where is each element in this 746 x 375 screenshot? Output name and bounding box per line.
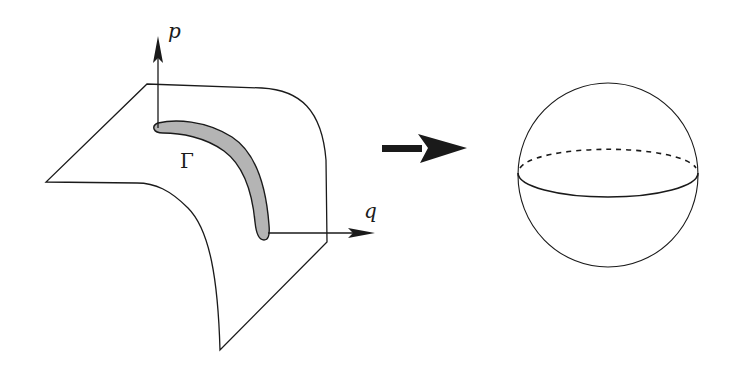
sphere-outline <box>518 83 698 267</box>
sphere-equator-back <box>520 149 696 168</box>
region-gamma <box>154 121 269 240</box>
transition-arrow-icon <box>382 134 467 163</box>
q-axis: q <box>268 199 377 238</box>
sphere-equator-front <box>518 173 698 197</box>
region-gamma-label: Γ <box>180 149 194 173</box>
sphere <box>518 83 698 267</box>
p-axis-label: p <box>168 19 181 43</box>
diagram-canvas: p q Γ <box>0 0 746 375</box>
q-axis-label: q <box>364 199 377 223</box>
p-axis: p <box>153 19 181 128</box>
